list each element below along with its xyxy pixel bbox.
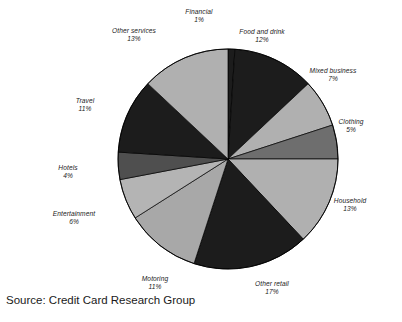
pie-slice-label-name: Entertainment [53, 210, 95, 218]
pie-slice-label-value: 17% [255, 288, 289, 296]
pie-chart-figure: Financial1%Food and drink12%Mixed busine… [0, 0, 402, 322]
pie-slice-label-name: Motoring [142, 275, 168, 283]
pie-slice-label-name: Other retail [255, 280, 289, 288]
pie-slice-label-value: 11% [76, 105, 94, 113]
pie-slice-label: Clothing5% [339, 118, 364, 135]
pie-slice-label-name: Hotels [58, 164, 77, 172]
pie-slice-label-name: Mixed business [310, 67, 357, 75]
pie-slice-label-value: 13% [112, 35, 156, 43]
pie-slice-label: Household13% [334, 197, 366, 214]
pie-slice-label-name: Clothing [339, 118, 364, 126]
pie-slice-label: Other retail17% [255, 280, 289, 297]
pie-slice-label-name: Other services [112, 27, 156, 35]
pie-slice-label-value: 13% [334, 205, 366, 213]
pie-slice-label-name: Travel [76, 97, 94, 105]
pie-slice-label-value: 12% [239, 36, 284, 44]
pie-slice-label-value: 4% [58, 172, 77, 180]
pie-slice-label: Other services13% [112, 27, 156, 44]
pie-slice-label: Travel11% [76, 97, 94, 114]
source-caption: Source: Credit Card Research Group [6, 294, 195, 306]
pie-slice-label: Entertainment6% [53, 210, 95, 227]
pie-slice-label: Food and drink12% [239, 28, 284, 45]
pie-chart-graphic [0, 0, 402, 322]
pie-slice-label-value: 7% [310, 75, 357, 83]
pie-slice-label-value: 1% [185, 16, 212, 24]
pie-slice-group [118, 49, 338, 269]
pie-slice-label: Mixed business7% [310, 67, 357, 84]
pie-slice-label-name: Food and drink [239, 28, 284, 36]
pie-slice-label: Financial1% [185, 8, 212, 25]
pie-slice-label-value: 6% [53, 218, 95, 226]
pie-slice-label-name: Financial [185, 8, 212, 16]
pie-slice-label-value: 11% [142, 283, 168, 291]
pie-slice-label-value: 5% [339, 126, 364, 134]
pie-slice-label: Motoring11% [142, 275, 168, 292]
pie-slice-label: Hotels4% [58, 164, 77, 181]
pie-slice-label-name: Household [334, 197, 366, 205]
